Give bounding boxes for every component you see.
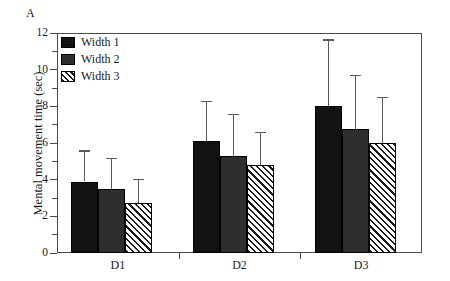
y-tick-label: 10 xyxy=(18,64,48,76)
y-tick-major xyxy=(50,216,57,217)
y-tick-label: 12 xyxy=(18,27,48,39)
error-bar-cap xyxy=(106,158,117,159)
error-bar-stem xyxy=(138,179,139,203)
error-bar-stem xyxy=(260,132,261,165)
bar-d2-width-2 xyxy=(220,156,247,253)
legend-label-width-1: Width 1 xyxy=(81,35,120,50)
y-tick-label: 6 xyxy=(18,137,48,149)
bar-d3-width-1 xyxy=(315,106,342,253)
y-tick-major xyxy=(50,33,57,34)
y-tick-major xyxy=(50,69,57,70)
legend-label-width-2: Width 2 xyxy=(81,52,120,67)
y-tick-minor xyxy=(52,234,57,235)
error-bar-cap xyxy=(79,150,90,151)
error-bar-cap xyxy=(228,114,239,115)
legend-entry-width-2: Width 2 xyxy=(61,51,166,67)
error-bar-stem xyxy=(328,39,329,106)
error-bar-stem xyxy=(111,158,112,189)
bar-d3-width-3 xyxy=(369,143,396,253)
y-tick-minor xyxy=(52,51,57,52)
error-bar-cap xyxy=(377,97,388,98)
error-bar-cap xyxy=(133,179,144,180)
bar-d3-width-2 xyxy=(342,129,369,253)
bar-d2-width-1 xyxy=(193,141,220,253)
error-bar-stem xyxy=(206,101,207,141)
legend-swatch-width-1-icon xyxy=(61,37,75,48)
y-tick-minor xyxy=(52,198,57,199)
y-tick-major xyxy=(50,143,57,144)
x-tick xyxy=(300,253,301,259)
legend-swatch-width-3-icon xyxy=(61,71,75,82)
y-tick-label: 0 xyxy=(18,247,48,259)
x-axis-label-d1: D1 xyxy=(110,258,125,273)
error-bar-stem xyxy=(84,150,85,181)
error-bar-cap xyxy=(350,75,361,76)
y-tick-minor xyxy=(52,124,57,125)
y-tick-major xyxy=(50,253,57,254)
legend-label-width-3: Width 3 xyxy=(81,69,120,84)
y-tick-major xyxy=(50,179,57,180)
legend-entry-width-1: Width 1 xyxy=(61,34,166,50)
legend-entry-width-3: Width 3 xyxy=(61,68,166,84)
error-bar-stem xyxy=(382,97,383,143)
x-tick xyxy=(179,253,180,259)
bar-d1-width-1 xyxy=(71,182,98,254)
y-tick-minor xyxy=(52,88,57,89)
error-bar-stem xyxy=(233,114,234,156)
chart-legend: Width 1 Width 2 Width 3 xyxy=(61,34,166,85)
figure-panel-a: A Mental movement time (sec) 024681012 W… xyxy=(0,0,450,281)
y-tick-major xyxy=(50,106,57,107)
y-tick-minor xyxy=(52,161,57,162)
bar-d2-width-3 xyxy=(247,165,274,253)
x-axis-label-d2: D2 xyxy=(232,258,247,273)
bar-d1-width-3 xyxy=(125,203,152,253)
x-axis-label-d3: D3 xyxy=(354,258,369,273)
bar-d1-width-2 xyxy=(98,189,125,253)
legend-swatch-width-2-icon xyxy=(61,54,75,65)
y-tick-label: 8 xyxy=(18,100,48,112)
error-bar-stem xyxy=(355,75,356,129)
error-bar-cap xyxy=(323,39,334,40)
y-tick-label: 4 xyxy=(18,174,48,186)
y-axis-tick-labels: 024681012 xyxy=(14,0,48,281)
y-tick-label: 2 xyxy=(18,210,48,222)
error-bar-cap xyxy=(255,132,266,133)
error-bar-cap xyxy=(201,101,212,102)
